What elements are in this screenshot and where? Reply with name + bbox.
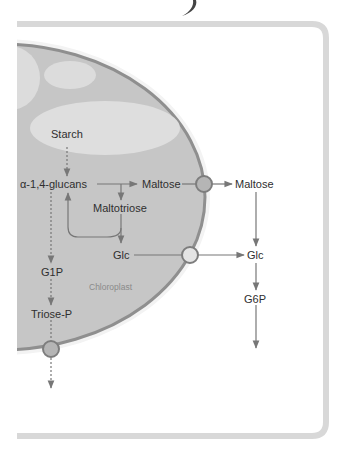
node-glc-cytosol: Glc [247, 249, 264, 261]
node-maltose-plastid: Maltose [142, 178, 181, 190]
glucose-transporter-icon [182, 247, 198, 263]
node-alpha-glucans: α-1,4-glucans [20, 178, 87, 190]
maltose-transporter-icon [196, 176, 212, 192]
node-glc-plastid: Glc [113, 249, 130, 261]
diagram-canvas [0, 0, 346, 459]
node-triose-p: Triose-P [31, 308, 72, 320]
triose-phosphate-transporter-icon [43, 341, 59, 357]
node-maltotriose: Maltotriose [93, 202, 147, 214]
cropped-heading-glyph [182, 0, 196, 16]
starch-grain-top [44, 61, 96, 89]
node-g1p: G1P [41, 266, 63, 278]
node-maltose-cytosol: Maltose [235, 178, 274, 190]
compartment-label-chloroplast: Chloroplast [89, 281, 132, 293]
node-starch: Starch [51, 128, 83, 140]
node-g6p: G6P [244, 293, 266, 305]
